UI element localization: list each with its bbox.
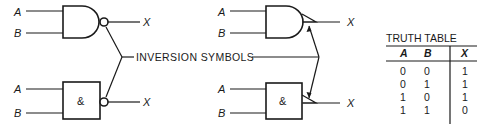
output-x-label: X: [142, 16, 151, 28]
input-a-label: A: [217, 83, 225, 95]
input-b-label: B: [14, 107, 21, 119]
inversion-bubble-icon: [100, 98, 108, 106]
cell-x: 1: [462, 91, 468, 103]
leader-line: [309, 57, 319, 98]
input-b-label: B: [14, 27, 21, 39]
cell-x: 1: [462, 65, 468, 77]
gate-nand-rectangular-triangle: A B & X: [217, 83, 355, 119]
table-row: 1 1 0: [400, 104, 468, 116]
leader-line: [106, 57, 122, 97]
table-header-a: A: [399, 47, 408, 59]
cell-b: 0: [424, 91, 430, 103]
cell-b: 0: [424, 65, 430, 77]
input-a-label: A: [13, 6, 21, 18]
and-gate-body: [266, 6, 303, 38]
arrowhead-icon: [307, 92, 312, 98]
inversion-symbols-label: INVERSION SYMBOLS: [136, 51, 254, 63]
cell-x: 1: [462, 78, 468, 90]
gate-nand-rectangular-bubble: A B & X: [13, 82, 151, 119]
gate-nand-distinctive-bubble: A B X: [13, 6, 151, 39]
gate-nand-distinctive-triangle: A B X: [217, 6, 355, 39]
output-x-label: X: [142, 96, 151, 108]
input-b-label: B: [218, 27, 225, 39]
and-symbol: &: [279, 95, 287, 107]
input-b-label: B: [218, 107, 225, 119]
cell-b: 1: [424, 104, 430, 116]
output-x-label: X: [346, 97, 355, 109]
cell-a: 1: [400, 104, 406, 116]
truth-table-title: TRUTH TABLE: [386, 32, 457, 44]
cell-x: 0: [462, 104, 468, 116]
inversion-triangle-icon: [302, 14, 316, 22]
table-header-b: B: [424, 47, 432, 59]
nand-diagram: A B X A B & X INVERSION SYMBOLS A: [0, 0, 480, 130]
input-a-label: A: [217, 6, 225, 18]
cell-b: 1: [424, 78, 430, 90]
cell-a: 0: [400, 78, 406, 90]
table-row: 1 0 1: [400, 91, 468, 103]
and-gate-body: [63, 6, 99, 38]
input-a-label: A: [13, 83, 21, 95]
cell-a: 1: [400, 91, 406, 103]
inversion-bubble-icon: [100, 18, 108, 26]
table-header-x: X: [460, 47, 469, 59]
truth-table: TRUTH TABLE A B X 0 0 1 0 1 1 1 0 1 1 1 …: [386, 32, 477, 124]
leader-line: [106, 27, 122, 57]
table-row: 0 0 1: [400, 65, 468, 77]
cell-a: 0: [400, 65, 406, 77]
arrowhead-icon: [307, 26, 312, 32]
and-symbol: &: [77, 95, 85, 107]
table-row: 0 1 1: [400, 78, 468, 90]
output-x-label: X: [346, 16, 355, 28]
